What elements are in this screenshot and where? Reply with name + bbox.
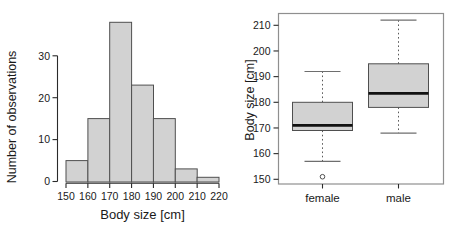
x-tick-label: 190 [145,190,163,202]
y-tick-label: 210 [253,19,271,31]
y-tick-label: 150 [253,173,271,185]
y-tick-label: 30 [38,50,50,62]
x-tick-label: 200 [167,190,185,202]
x-tick-label: 170 [101,190,119,202]
histogram-panel: 0102030150160170180190200210220Body size… [0,0,240,233]
x-tick-label: 160 [79,190,97,202]
histogram-bar [175,169,197,182]
boxplot-panel: 150160170180190200210Body size [cm]femal… [240,0,467,233]
histogram-bar [197,177,219,182]
x-tick-label: 150 [57,190,75,202]
y-tick-label: 160 [253,147,271,159]
histogram-bar [153,119,175,182]
outlier-point [320,174,325,179]
y-tick-label: 20 [38,92,50,104]
histogram-bar [88,119,110,182]
category-label: female [305,192,340,204]
figure: 0102030150160170180190200210220Body size… [0,0,467,233]
box [369,64,429,108]
histogram-bar [110,22,132,182]
x-tick-label: 220 [210,190,228,202]
x-axis-title: Body size [cm] [100,207,185,222]
y-tick-label: 10 [38,133,50,145]
x-tick-label: 210 [188,190,206,202]
histogram-bar [66,161,88,182]
y-axis-title: Number of observations [5,51,19,184]
category-label: male [386,192,411,204]
x-tick-label: 180 [123,190,141,202]
y-axis-title: Body size [cm] [243,59,257,140]
y-tick-label: 200 [253,45,271,57]
y-tick-label: 0 [44,175,50,187]
histogram-bar [132,85,154,182]
